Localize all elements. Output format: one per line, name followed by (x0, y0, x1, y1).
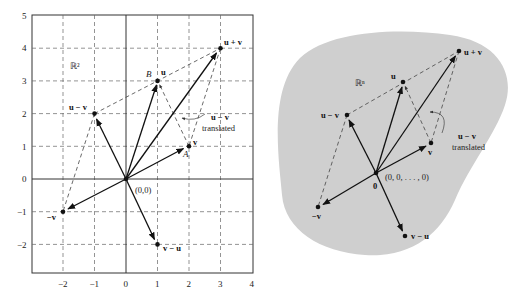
origin-label: (0,0) (135, 185, 151, 195)
svg-text:1: 1 (22, 142, 27, 152)
x-tick-labels: −2 −1 0 1 2 3 4 (58, 279, 255, 289)
annotation-line2-right: translated (452, 142, 486, 152)
label-v-minus-u-right: v − u (411, 231, 429, 241)
point-u-minus-v (92, 111, 97, 116)
point-u-plus-v-right (457, 49, 462, 54)
y-tick-labels: 5 4 3 2 1 0 −1 −2 (17, 11, 27, 250)
point-v (187, 144, 192, 149)
svg-text:1: 1 (155, 279, 160, 289)
space-label-rn: ℝⁿ (355, 78, 365, 88)
points (61, 46, 223, 247)
svg-text:−2: −2 (17, 240, 27, 250)
right-diagram: ℝⁿ (0, 0, . . . , 0) 0 u v u + v u − v −… (278, 32, 508, 256)
annotation-line2: translated (202, 123, 236, 133)
svg-text:3: 3 (22, 76, 27, 86)
figure-canvas: 5 4 3 2 1 0 −1 −2 −2 −1 0 1 2 3 4 (0, 0, 522, 297)
vector-u-plus-v (126, 53, 217, 179)
left-plot: 5 4 3 2 1 0 −1 −2 −2 −1 0 1 2 3 4 (17, 11, 255, 290)
label-v: v (193, 137, 198, 147)
zero-vector-label: 0 (373, 181, 377, 191)
point-neg-v-right (316, 205, 321, 210)
point-u (155, 79, 160, 84)
svg-text:5: 5 (22, 11, 27, 21)
svg-text:3: 3 (218, 279, 223, 289)
label-u-right: u (391, 71, 396, 81)
label-neg-v-right: −v (312, 211, 322, 221)
point-v-minus-u-right (403, 234, 408, 239)
label-v-minus-u: v − u (163, 243, 181, 253)
annotation-line1-right: u − v (458, 131, 477, 141)
plot-frame (32, 15, 253, 273)
svg-text:4: 4 (22, 43, 27, 53)
vector-neg-v (68, 179, 126, 209)
origin-point-right (374, 171, 379, 176)
svg-text:−1: −1 (17, 207, 27, 217)
label-point-B: B (146, 69, 152, 79)
svg-text:4: 4 (250, 279, 255, 289)
svg-text:−1: −1 (90, 279, 100, 289)
origin-label-right: (0, 0, . . . , 0) (385, 172, 429, 182)
point-u-plus-v (218, 46, 223, 51)
vector-u-minus-v (97, 119, 127, 179)
label-neg-v: −v (47, 212, 57, 222)
u-minus-v-translated-vector (160, 85, 190, 147)
point-neg-v (61, 209, 66, 214)
label-point-A: A (182, 149, 189, 159)
label-u: u (161, 67, 166, 77)
label-u-plus-v-right: u + v (464, 47, 483, 57)
label-u-plus-v: u + v (224, 37, 243, 47)
svg-text:0: 0 (22, 174, 27, 184)
grid-lines (32, 15, 253, 273)
point-u-minus-v-right (345, 113, 350, 118)
svg-text:−2: −2 (58, 279, 68, 289)
origin-point (124, 177, 129, 182)
point-v-minus-u (155, 242, 160, 247)
space-label-r2: ℝ² (70, 61, 80, 71)
annotation-pointer (182, 114, 205, 119)
annotation-line1: u − v (211, 112, 230, 122)
svg-text:2: 2 (187, 279, 192, 289)
label-u-minus-v-right: u − v (321, 110, 340, 120)
point-u-right (401, 80, 406, 85)
point-v-right (429, 141, 434, 146)
svg-text:0: 0 (124, 279, 129, 289)
label-u-minus-v: u − v (69, 102, 88, 112)
svg-text:2: 2 (22, 109, 27, 119)
